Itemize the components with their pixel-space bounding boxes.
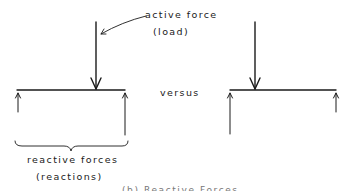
reactions-sublabel: (reactions)	[36, 172, 103, 182]
leader-arrow-icon	[101, 16, 146, 34]
reactive-forces-label: reactive forces	[27, 155, 118, 165]
reaction-brace-icon	[15, 141, 128, 151]
right-reaction-left-arrow-icon	[228, 93, 233, 134]
load-sublabel: (load)	[153, 27, 189, 37]
left-reaction-left-arrow-icon	[16, 93, 21, 112]
active-force-label: active force	[145, 10, 218, 20]
right-reaction-right-arrow-icon	[334, 93, 339, 112]
left-reaction-right-arrow-icon	[123, 93, 128, 135]
versus-label: versus	[160, 88, 200, 98]
right-load-arrow-icon	[250, 22, 260, 89]
figure-caption: (b) Reactive Forces	[122, 186, 239, 191]
left-load-arrow-icon	[91, 22, 101, 89]
